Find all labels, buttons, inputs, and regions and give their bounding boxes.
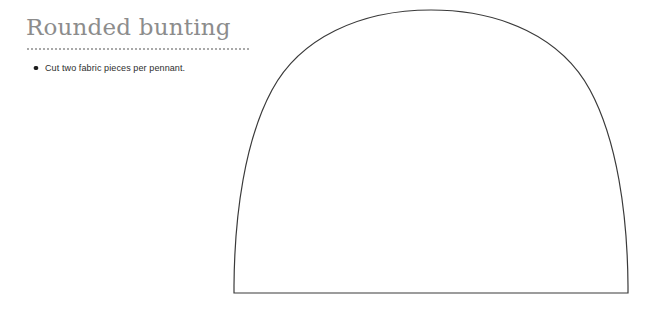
title-divider <box>26 48 250 50</box>
bullet-point-icon <box>34 66 38 71</box>
list-item: Cut two fabric pieces per pennant. <box>26 61 246 74</box>
rounded-bunting-outline-shape <box>234 10 628 293</box>
header-block: Rounded bunting Cut two fabric pieces pe… <box>26 12 258 74</box>
instruction-notes-list: Cut two fabric pieces per pennant. <box>26 61 258 74</box>
note-text: Cut two fabric pieces per pennant. <box>45 62 185 73</box>
page-title: Rounded bunting <box>26 12 258 42</box>
pattern-sheet-page: Rounded bunting Cut two fabric pieces pe… <box>0 0 665 311</box>
